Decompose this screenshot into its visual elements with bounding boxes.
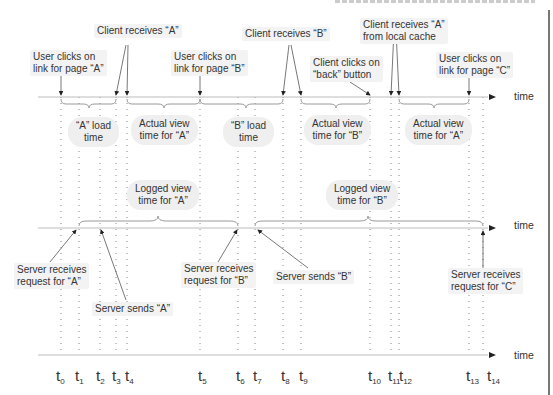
label-client-receives-b: Client receives “B” [242, 27, 330, 41]
reference-axis-label: time [514, 349, 534, 361]
tick-t8: t8 [281, 368, 290, 389]
label-server-receives-c: Server receivesrequest for “C” [448, 268, 523, 294]
label-actual-view-a: Actual viewtime for “A” [131, 115, 198, 145]
label-server-sends-a: Server sends “A” [92, 302, 173, 316]
tick-t12: t12 [399, 368, 412, 389]
tick-t7: t7 [253, 368, 262, 389]
tick-t5: t5 [198, 368, 207, 389]
label-user-clicks-b: User clicks onlink for page “B” [171, 50, 248, 76]
tick-t10: t10 [368, 368, 381, 389]
reference-axis-arrowhead-icon [489, 352, 496, 358]
tick-t9: t9 [299, 368, 308, 389]
label-a-load-time: “A” loadtime [68, 117, 119, 147]
label-user-clicks-a: User clicks onlink for page “A” [30, 50, 107, 76]
tick-t6: t6 [236, 368, 245, 389]
label-server-sends-b: Server sends “B” [273, 270, 354, 284]
tick-t14: t14 [487, 368, 500, 389]
client-axis-label: time [514, 90, 534, 102]
label-logged-view-a: Logged viewtime for “A” [127, 180, 199, 210]
server-axis-label: time [514, 219, 534, 231]
tick-t2: t2 [96, 368, 105, 389]
tick-t4: t4 [125, 368, 134, 389]
tick-t1: t1 [75, 368, 84, 389]
client-axis-arrowhead-icon [489, 94, 496, 100]
label-client-clicks-back: Client clicks on“back” button [310, 56, 383, 82]
tick-t0: t0 [56, 368, 65, 389]
label-logged-view-b: Logged viewtime for “B” [326, 180, 398, 210]
timeline-diagram: User clicks onlink for page “A” Client r… [0, 0, 553, 395]
label-b-load-time: “B” loadtime [223, 117, 274, 147]
label-server-receives-a: Server receivesrequest for “A” [14, 263, 89, 289]
label-actual-view-a-2: Actual viewtime for “A” [405, 115, 472, 145]
label-client-receives-a-cache: Client receives “A”from local cache [360, 18, 448, 44]
label-server-receives-b: Server receivesrequest for “B” [181, 262, 256, 288]
tick-t3: t3 [112, 368, 121, 389]
tick-t13: t13 [466, 368, 479, 389]
label-user-clicks-c: User clicks onlink for page “C” [436, 52, 513, 78]
server-axis-arrowhead-icon [489, 225, 496, 231]
label-actual-view-b: Actual viewtime for “B” [304, 115, 371, 145]
label-client-receives-a: Client receives “A” [94, 24, 182, 38]
